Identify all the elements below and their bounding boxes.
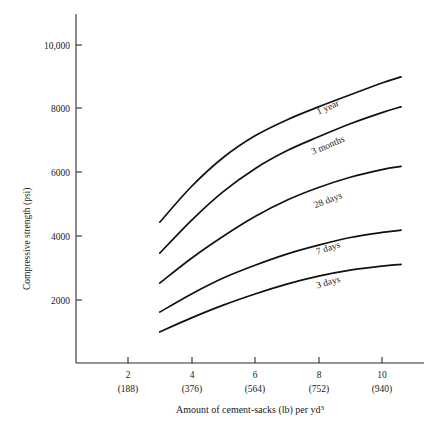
y-tick-label-2000: 2000 (51, 296, 70, 306)
series-labels: 1 year 3 months 28 days 7 days 3 days (310, 98, 346, 291)
y-tick-label-6000: 6000 (51, 168, 70, 178)
curve-28-days (160, 166, 401, 283)
y-axis-title: Compressive strength (psi) (22, 188, 33, 290)
x-axis-tick-labels: 2 4 6 8 10 (126, 370, 387, 380)
compressive-strength-line-chart: 10,000 8000 6000 4000 2000 Compressive s… (0, 0, 439, 425)
series-label-3-months: 3 months (310, 134, 346, 157)
x-axis-ticks (128, 357, 382, 363)
curve-1-year (160, 77, 401, 222)
x-tick-sublabel-564: (564) (245, 384, 266, 395)
series-label-7-days: 7 days (315, 240, 342, 257)
x-axis-title-base: Amount of cement-sacks (lb) per yd (176, 404, 321, 416)
x-tick-sublabel-188: (188) (118, 384, 139, 395)
series-label-28-days: 28 days (312, 190, 343, 210)
series-label-1-year: 1 year (315, 98, 341, 117)
y-tick-label-10000: 10,000 (44, 41, 70, 51)
curve-3-months (160, 107, 401, 253)
x-axis-tick-sublabels: (188) (376) (564) (752) (940) (118, 384, 393, 395)
y-axis-ticks (76, 45, 82, 300)
curve-3-days (160, 264, 401, 332)
x-tick-label-6: 6 (253, 370, 258, 380)
x-axis-title-exponent: 3 (321, 404, 325, 412)
series-curves (160, 77, 401, 332)
x-tick-sublabel-376: (376) (182, 384, 203, 395)
y-tick-label-4000: 4000 (51, 232, 70, 242)
curve-7-days (160, 230, 401, 312)
x-tick-label-4: 4 (190, 370, 195, 380)
x-tick-sublabel-752: (752) (309, 384, 330, 395)
x-tick-label-8: 8 (317, 370, 322, 380)
x-tick-label-2: 2 (126, 370, 131, 380)
x-axis-title: Amount of cement-sacks (lb) per yd3 (176, 404, 325, 417)
y-tick-label-8000: 8000 (51, 104, 70, 114)
chart-figure: 10,000 8000 6000 4000 2000 Compressive s… (0, 0, 439, 425)
x-tick-sublabel-940: (940) (372, 384, 393, 395)
y-axis-tick-labels: 10,000 8000 6000 4000 2000 (44, 41, 70, 306)
x-tick-label-10: 10 (377, 370, 387, 380)
